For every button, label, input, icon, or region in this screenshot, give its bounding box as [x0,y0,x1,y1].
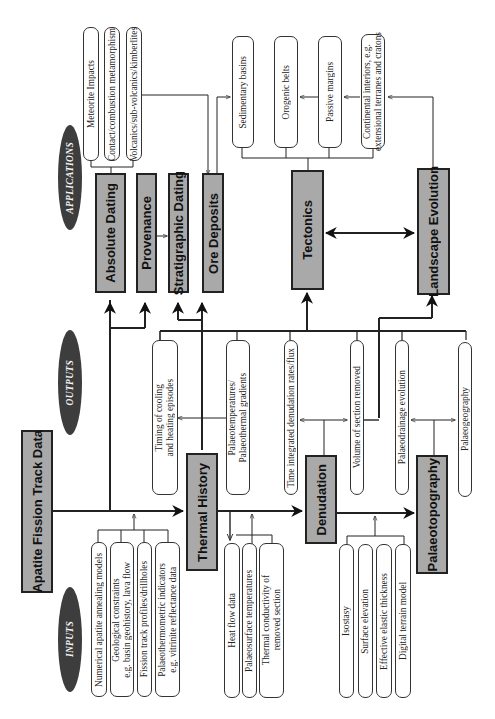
ore-deposits-label: Ore Deposits [206,193,221,274]
volcanics-label: Volcanics/sub-volcanics/kimberlites [129,27,140,161]
input-geological-constraints: Geological constraints e.g. basin geohis… [110,542,134,697]
palaeotemperatures-line2: Palaeothermal gradients [238,373,248,463]
palaeogeography-label: Palaeogeography [460,387,471,451]
timing-line2: and heating episodes [165,379,175,456]
stratigraphic-dating-label: Stratigraphic Dating [171,171,186,295]
palaeothermometric-line1: Palaeothermometric indicators [157,563,167,677]
process-thermal-history: Thermal History [186,453,218,571]
sedimentary-basins-label: Sedimentary basins [238,56,249,129]
app-provenance: Provenance [136,173,157,293]
continental-interiors-label: Continental interiors, e.g. extensional … [362,32,384,151]
thermal-conductivity-line1: Thermal conductivity of [261,575,271,665]
effective-elastic-thickness-label: Effective elastic thickness [379,573,390,670]
setting-orogenic-belts: Orogenic belts [274,36,298,148]
palaeodrainage-evolution-label: Palaeodrainage evolution [397,370,408,464]
app-absolute-dating: Absolute Dating [95,173,126,293]
digital-terrain-model-label: Digital terrain model [398,582,409,660]
applications-category-oval: APPLICATIONS [58,125,82,230]
input-isostasy: Isostasy [339,544,354,698]
output-palaeogeography: Palaeogeography [458,342,472,497]
meteorite-impacts-label: Meteorite Impacts [86,60,97,128]
source-apatite-fission-track-data: Apatite Fission Track Data [21,430,53,593]
palaeotopography-label: Palaeotopography [425,458,440,571]
timing-of-cooling-label: Timing of cooling and heating episodes [154,379,176,456]
input-palaeothermometric-indicators: Palaeothermometric indicators e.g. vitri… [155,542,180,697]
outputs-label: OUTPUTS [65,360,75,405]
subapp-contact-metamorphism: Contact/combustion metamorphism [104,27,120,161]
output-palaeotemperatures: Palaeotemperatures/ Palaeothermal gradie… [226,340,250,495]
time-integrated-denudation-label: Time integrated denudation rates/flux [286,348,297,488]
absolute-dating-label: Absolute Dating [103,183,118,283]
process-denudation: Denudation [305,455,337,544]
provenance-label: Provenance [139,196,154,270]
input-numerical-annealing-models: Numerical apatite annealing models [91,542,107,697]
orogenic-belts-label: Orogenic belts [281,65,292,119]
passive-margins-label: Passive margins [325,62,336,122]
setting-continental-interiors: Continental interiors, e.g. extensional … [361,34,385,149]
heat-flow-data-label: Heat flow data [227,593,238,648]
geological-constraints-label: Geological constraints e.g. basin geohis… [111,562,133,678]
output-volume-of-section-removed: Volume of section removed [350,340,364,495]
applications-label: APPLICATIONS [65,142,75,214]
setting-passive-margins: Passive margins [318,36,342,148]
input-surface-elevation: Surface elevation [358,544,373,698]
input-digital-terrain-model: Digital terrain model [395,544,411,698]
palaeotemperatures-line1: Palaeotemperatures/ [227,380,237,455]
inputs-label: INPUTS [65,621,75,657]
timing-line1: Timing of cooling [154,384,164,451]
fission-track-profiles-label: Fission track profiles/drillholes [139,561,150,677]
tectonics-label: Tectonics [300,200,315,260]
input-palaeosurface-temperatures: Palaeosurface temperatures [242,543,257,698]
palaeothermometric-line2: e.g. vitrinite reflectance data [168,566,178,672]
inputs-category-oval: INPUTS [58,587,82,692]
setting-sedimentary-basins: Sedimentary basins [232,36,254,148]
output-time-integrated-denudation: Time integrated denudation rates/flux [284,340,298,495]
input-effective-elastic-thickness: Effective elastic thickness [376,544,392,698]
input-thermal-conductivity: Thermal conductivity of removed section [259,543,284,698]
app-ore-deposits: Ore Deposits [202,173,224,293]
input-fission-track-profiles: Fission track profiles/drillholes [137,542,152,697]
thermal-conductivity-line2: removed section [272,590,282,651]
surface-elevation-label: Surface elevation [360,589,371,654]
denudation-label: Denudation [314,464,329,536]
continental-interiors-line1: Continental interiors, e.g. [362,44,372,139]
process-palaeotopography: Palaeotopography [416,455,448,574]
landscape-evolution-label: Landscape Evolution [426,166,441,297]
subapp-meteorite-impacts: Meteorite Impacts [83,27,99,161]
apatite-fission-track-flow-diagram: APPLICATIONS OUTPUTS INPUTS Apatite Fiss… [0,0,495,719]
thermal-history-label: Thermal History [195,463,210,562]
continental-interiors-line2: extensional terranes and cratons [373,32,383,151]
thermal-conductivity-label: Thermal conductivity of removed section [261,575,283,665]
palaeothermometric-label: Palaeothermometric indicators e.g. vitri… [157,563,179,677]
app-tectonics: Tectonics [291,170,324,290]
output-timing-of-cooling: Timing of cooling and heating episodes [152,340,178,495]
geological-constraints-line1: Geological constraints [111,578,121,661]
palaeosurface-temperatures-label: Palaeosurface temperatures [244,570,255,672]
isostasy-label: Isostasy [341,606,352,636]
palaeotemperatures-label: Palaeotemperatures/ Palaeothermal gradie… [227,373,249,463]
geological-constraints-line2: e.g. basin geohistory, lava flow [122,562,132,678]
numerical-annealing-label: Numerical apatite annealing models [94,553,105,687]
output-palaeodrainage-evolution: Palaeodrainage evolution [395,340,409,495]
outputs-category-oval: OUTPUTS [58,330,82,435]
app-stratigraphic-dating: Stratigraphic Dating [168,173,189,293]
source-title: Apatite Fission Track Data [30,430,45,593]
subapp-volcanics: Volcanics/sub-volcanics/kimberlites [126,27,142,161]
contact-metamorphism-label: Contact/combustion metamorphism [107,28,118,161]
app-landscape-evolution: Landscape Evolution [417,168,450,295]
input-heat-flow-data: Heat flow data [224,543,240,698]
volume-of-section-removed-label: Volume of section removed [352,366,363,468]
